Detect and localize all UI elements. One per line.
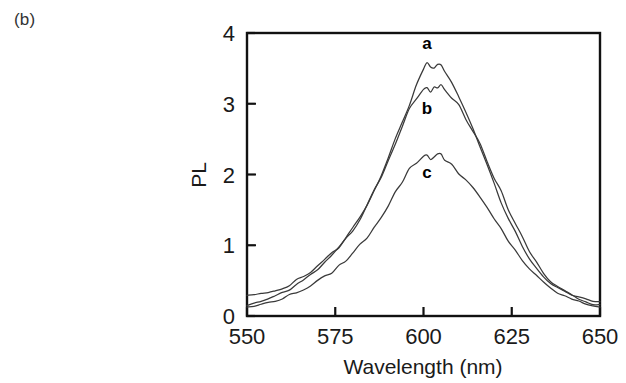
pl-spectrum-chart: 550575600625650 01234 abc Wavelength (nm… (0, 0, 626, 383)
curve-label-b: b (422, 99, 432, 118)
x-axis-ticks (247, 307, 600, 316)
x-axis-title: Wavelength (nm) (343, 355, 502, 378)
y-tick-label: 3 (223, 92, 235, 117)
y-tick-label: 0 (223, 304, 235, 329)
x-tick-label: 575 (317, 324, 354, 349)
y-axis-tick-labels: 01234 (223, 21, 235, 329)
curve-label-c: c (422, 163, 431, 182)
x-tick-label: 600 (405, 324, 442, 349)
y-axis-ticks (247, 33, 256, 316)
x-tick-label: 650 (582, 324, 619, 349)
y-tick-label: 1 (223, 233, 235, 258)
y-tick-label: 4 (223, 21, 235, 46)
figure-panel: (b) 550575600625650 01234 abc Wavelength… (0, 0, 626, 383)
y-tick-label: 2 (223, 163, 235, 188)
x-tick-label: 625 (493, 324, 530, 349)
y-axis-title: PL (187, 162, 210, 188)
x-axis-tick-labels: 550575600625650 (229, 324, 619, 349)
curve-label-a: a (422, 34, 432, 53)
